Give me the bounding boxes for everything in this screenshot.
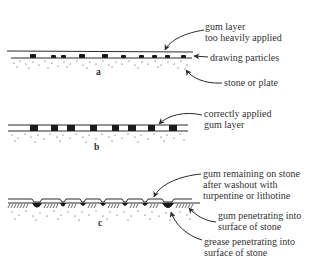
label-correct-gum-1: correctly applied	[204, 108, 271, 119]
label-stone-or-plate: stone or plate	[224, 77, 278, 88]
gum-layer-top-line-a	[7, 51, 193, 52]
label-gum-penetrating-1: gum penetrating into	[218, 210, 301, 221]
label-correct-gum-2: gum layer	[204, 119, 244, 130]
label-gum-remaining-2: after washout with	[203, 179, 277, 190]
diagram-a	[7, 30, 222, 83]
label-grease-penetrating-1: grease penetrating into	[204, 236, 295, 247]
arrow-drawing-particles-a	[194, 56, 208, 57]
drawing-particles-a	[30, 54, 186, 58]
label-gum-layer-heavy-2: too heavily applied	[205, 32, 282, 43]
label-grease-penetrating-2: surface of stone	[204, 247, 267, 258]
arrow-stone-a	[186, 70, 222, 83]
stone-stipple-c	[11, 210, 194, 220]
label-gum-layer-heavy-1: gum layer	[205, 21, 245, 32]
label-gum-remaining-3: turpentine or lithotine	[203, 190, 290, 201]
diagram-b	[8, 113, 202, 142]
arrow-gum-remaining-c	[154, 174, 201, 197]
diagram-letter-a: a	[96, 67, 101, 77]
drawing-particles-b	[30, 125, 177, 131]
diagram-letter-c: c	[98, 218, 102, 228]
diagram-letter-b: b	[94, 142, 99, 152]
label-drawing-particles: drawing particles	[210, 52, 279, 63]
arrow-gum-layer-a	[165, 30, 204, 50]
label-gum-penetrating-2: surface of stone	[218, 221, 281, 232]
gum-remaining-profile-c	[8, 199, 192, 202]
label-gum-remaining-1: gum remaining on stone	[203, 168, 300, 179]
arrow-gum-penetrating-c	[189, 208, 216, 222]
arrow-grease-penetrating-c	[171, 212, 202, 240]
diagram-c	[8, 174, 216, 240]
arrow-correct-gum-b	[159, 113, 202, 124]
